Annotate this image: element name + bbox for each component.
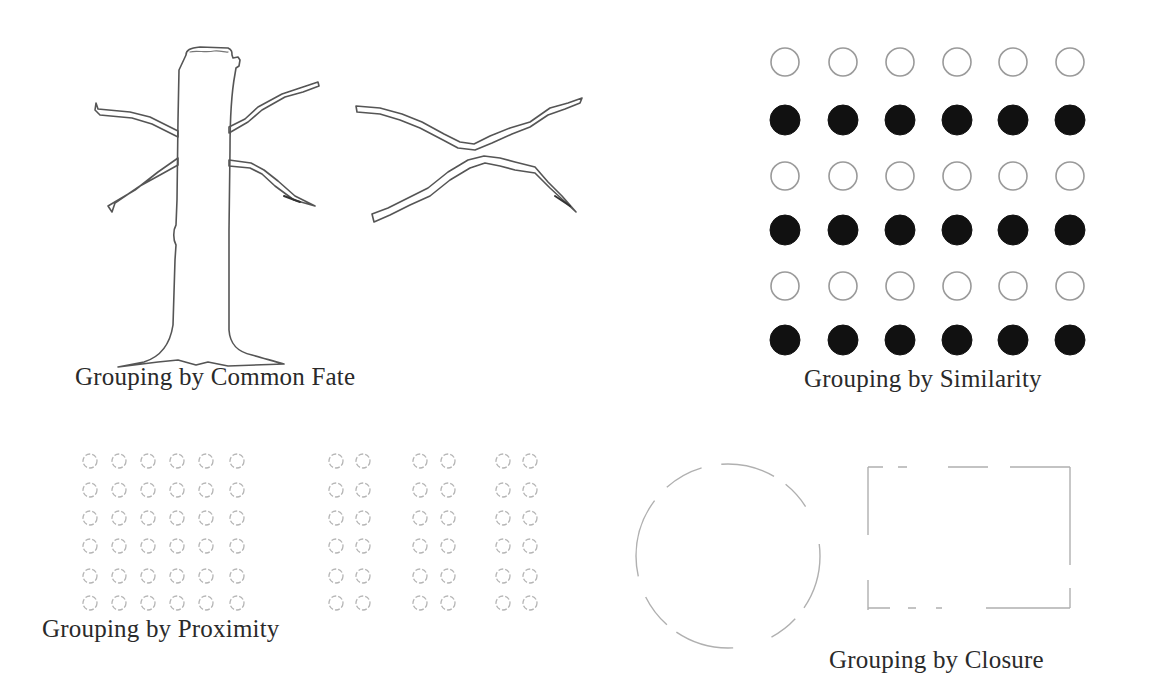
proximity-dot-paired — [523, 511, 537, 525]
proximity-dot-even — [170, 596, 184, 610]
proximity-dot-even — [199, 596, 213, 610]
hollow-dot — [1056, 162, 1084, 190]
proximity-dot-paired — [329, 596, 343, 610]
tree-and-branches-illustration — [0, 0, 620, 410]
branch-right-upper — [229, 82, 319, 133]
proximity-dot-even — [141, 569, 155, 583]
filled-dot — [885, 105, 915, 135]
proximity-dot-paired — [496, 454, 510, 468]
proximity-dot-grid — [0, 430, 600, 690]
proximity-dot-paired — [441, 454, 455, 468]
branch-right-lower — [229, 160, 315, 206]
proximity-dot-paired — [496, 539, 510, 553]
hollow-dot — [771, 48, 799, 76]
hollow-dot — [1056, 48, 1084, 76]
proximity-dot-even — [230, 539, 244, 553]
hollow-dot — [943, 48, 971, 76]
filled-dot — [942, 215, 972, 245]
filled-dot — [828, 105, 858, 135]
proximity-dot-even — [230, 596, 244, 610]
proximity-dot-even — [83, 454, 97, 468]
proximity-dot-even — [170, 569, 184, 583]
caption-similarity: Grouping by Similarity — [804, 365, 1042, 393]
proximity-dot-paired — [441, 483, 455, 497]
proximity-dot-paired — [441, 569, 455, 583]
similarity-panel: Grouping by Similarity — [740, 20, 1140, 410]
proximity-dot-even — [170, 511, 184, 525]
proximity-dot-paired — [356, 483, 370, 497]
proximity-dot-paired — [413, 569, 427, 583]
proximity-dot-paired — [496, 596, 510, 610]
proximity-dot-even — [83, 569, 97, 583]
branch-left-upper — [95, 103, 178, 137]
caption-proximity: Grouping by Proximity — [42, 615, 280, 643]
branch-left-lower — [108, 158, 178, 212]
tree-trunk — [118, 47, 284, 367]
proximity-dot-paired — [523, 454, 537, 468]
proximity-dot-even — [199, 483, 213, 497]
hollow-dot — [771, 162, 799, 190]
filled-dot — [770, 105, 800, 135]
filled-dot — [1055, 105, 1085, 135]
proximity-dot-paired — [441, 596, 455, 610]
proximity-dot-paired — [413, 454, 427, 468]
filled-dot — [1055, 215, 1085, 245]
proximity-dot-even — [199, 454, 213, 468]
proximity-dot-paired — [496, 483, 510, 497]
proximity-dot-paired — [329, 569, 343, 583]
detached-branch-upper — [356, 98, 582, 150]
hollow-dot — [829, 162, 857, 190]
proximity-dot-even — [170, 539, 184, 553]
proximity-dot-paired — [523, 539, 537, 553]
proximity-dot-paired — [413, 511, 427, 525]
proximity-dot-even — [141, 483, 155, 497]
proximity-dot-even — [141, 539, 155, 553]
common-fate-panel: Grouping by Common Fate — [0, 0, 620, 410]
proximity-dot-paired — [356, 539, 370, 553]
proximity-dot-even — [112, 483, 126, 497]
proximity-dot-even — [230, 454, 244, 468]
proximity-dot-paired — [329, 539, 343, 553]
proximity-dot-paired — [356, 569, 370, 583]
proximity-dot-even — [112, 569, 126, 583]
proximity-dot-even — [83, 511, 97, 525]
proximity-dot-paired — [413, 483, 427, 497]
proximity-dot-paired — [496, 511, 510, 525]
detached-branch-lower — [372, 156, 576, 222]
filled-dot — [885, 215, 915, 245]
filled-dot — [828, 215, 858, 245]
filled-dot — [1055, 325, 1085, 355]
proximity-dot-paired — [441, 511, 455, 525]
proximity-dot-paired — [523, 569, 537, 583]
hollow-dot — [886, 272, 914, 300]
filled-dot — [770, 325, 800, 355]
caption-common-fate: Grouping by Common Fate — [75, 363, 355, 391]
proximity-dot-even — [112, 511, 126, 525]
proximity-dot-even — [83, 483, 97, 497]
proximity-dot-even — [199, 511, 213, 525]
proximity-dot-paired — [356, 596, 370, 610]
proximity-dot-even — [141, 596, 155, 610]
hollow-dot — [1056, 272, 1084, 300]
proximity-panel: Grouping by Proximity — [0, 430, 600, 690]
hollow-dot — [999, 48, 1027, 76]
hollow-dot — [943, 272, 971, 300]
proximity-dot-even — [83, 539, 97, 553]
proximity-dot-paired — [329, 483, 343, 497]
filled-dot — [942, 105, 972, 135]
proximity-dot-even — [83, 596, 97, 610]
proximity-dot-even — [230, 511, 244, 525]
proximity-dot-even — [230, 569, 244, 583]
hollow-dot — [829, 272, 857, 300]
hollow-dot — [943, 162, 971, 190]
proximity-dot-paired — [356, 511, 370, 525]
proximity-dot-even — [112, 454, 126, 468]
proximity-dot-paired — [329, 511, 343, 525]
proximity-dot-paired — [356, 454, 370, 468]
proximity-dot-paired — [523, 596, 537, 610]
proximity-dot-paired — [496, 569, 510, 583]
hollow-dot — [999, 162, 1027, 190]
proximity-dot-paired — [441, 539, 455, 553]
proximity-dot-even — [170, 454, 184, 468]
filled-dot — [998, 215, 1028, 245]
